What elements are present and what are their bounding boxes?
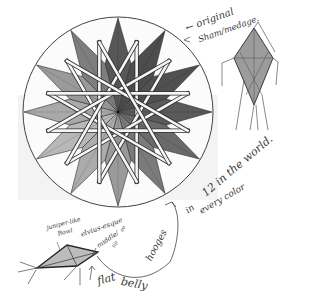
twelve-point-star-mandala	[23, 17, 213, 207]
side-kite-sketch	[222, 22, 278, 130]
annotation-arrows	[184, 37, 190, 42]
